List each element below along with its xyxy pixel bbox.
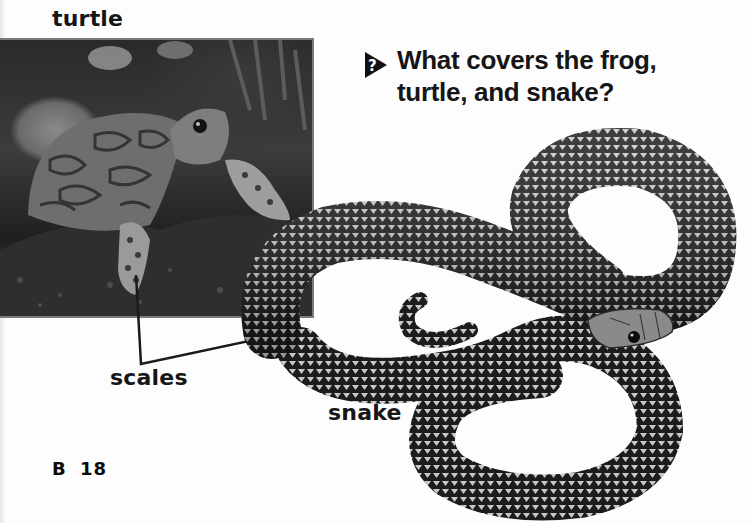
question-line-2: turtle, and snake? xyxy=(363,76,693,108)
scales-label: scales xyxy=(110,365,188,390)
question-heading: ? What covers the frog, turtle, and snak… xyxy=(363,44,693,108)
snake-label: snake xyxy=(328,400,402,425)
page-number: B 18 xyxy=(52,458,107,479)
question-line-1: What covers the frog, xyxy=(363,44,693,76)
svg-text:?: ? xyxy=(368,57,376,75)
question-triangle-icon: ? xyxy=(363,50,389,80)
